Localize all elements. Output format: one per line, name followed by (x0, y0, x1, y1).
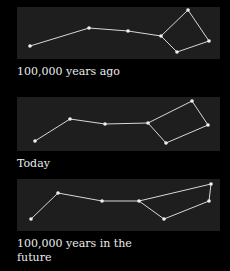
star-icon (28, 44, 32, 48)
star-icon (175, 50, 179, 54)
star-icon (103, 122, 107, 126)
star-icon (207, 199, 211, 203)
panel-past (17, 7, 220, 59)
star-icon (206, 123, 210, 127)
constellation-line (128, 31, 161, 36)
constellation-line (89, 28, 128, 31)
constellation-line (166, 125, 208, 143)
star-icon (33, 139, 37, 143)
constellation-today-icon (17, 97, 220, 151)
panel-future (17, 179, 220, 231)
star-icon (162, 217, 166, 221)
constellation-line (148, 101, 192, 123)
constellation-line (161, 10, 188, 36)
caption-today: Today (17, 157, 50, 171)
star-icon (137, 199, 141, 203)
star-icon (100, 199, 104, 203)
panel-today (17, 97, 220, 151)
star-icon (159, 34, 163, 38)
constellation-line (35, 119, 70, 141)
constellation-line (139, 201, 164, 219)
constellation-line (139, 184, 211, 201)
star-icon (146, 121, 150, 125)
constellation-line (188, 10, 209, 41)
caption-past: 100,000 years ago (17, 65, 120, 79)
constellation-line (192, 101, 208, 125)
star-icon (29, 217, 33, 221)
star-icon (164, 141, 168, 145)
star-icon (190, 99, 194, 103)
star-icon (87, 26, 91, 30)
star-icon (207, 39, 211, 43)
constellation-line (31, 193, 58, 219)
star-icon (209, 182, 213, 186)
constellation-line (209, 184, 211, 201)
star-icon (186, 8, 190, 12)
star-icon (126, 29, 130, 33)
constellation-line (105, 123, 148, 124)
constellation-line (30, 28, 89, 46)
constellation-past-icon (17, 7, 220, 59)
constellation-line (70, 119, 105, 124)
constellation-line (164, 201, 209, 219)
constellation-line (177, 41, 209, 52)
constellation-line (58, 193, 102, 201)
star-icon (68, 117, 72, 121)
constellation-line (161, 36, 177, 52)
constellation-line (148, 123, 166, 143)
caption-future: 100,000 years in the future (17, 237, 137, 265)
star-icon (56, 191, 60, 195)
constellation-future-icon (17, 179, 220, 231)
